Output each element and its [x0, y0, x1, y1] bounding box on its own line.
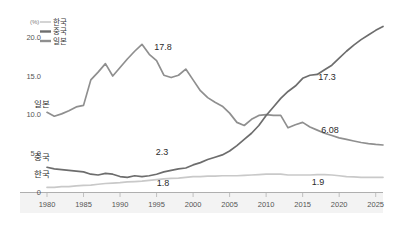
x-tick-label: 1990 [112, 200, 129, 209]
x-tick-label: 1995 [148, 200, 165, 209]
footer-note: 주: 2021~2026년 전망치 [10, 235, 89, 237]
series-label-china: 중국 [34, 152, 50, 162]
y-tick-label: 10.0 [26, 110, 41, 119]
value-annotation-2-3: 2.3 [156, 147, 169, 157]
legend-item-korea: 한국 [53, 18, 67, 27]
y-tick-label: 20.0 [26, 33, 41, 42]
footer-source: 자료: IMF [352, 235, 383, 237]
y-tick-label: 15.0 [26, 72, 41, 81]
x-tick-label: 2025 [367, 200, 384, 209]
value-annotation-1-8: 1.8 [157, 178, 170, 188]
x-tick-label: 1985 [75, 200, 92, 209]
x-tick-label: 2020 [331, 200, 348, 209]
chart-container: (%)20.015.010.05.00198019851990199520002… [0, 0, 393, 237]
legend-item-japan: 일본 [53, 37, 67, 46]
legend-item-china: 중국 [53, 27, 67, 36]
value-annotation-6-08: 6.08 [321, 125, 339, 135]
value-annotation-1-9: 1.9 [312, 177, 325, 187]
y-axis-unit: (%) [30, 19, 39, 25]
y-tick-label: 0 [37, 188, 41, 197]
value-annotation-17-3: 17.3 [318, 72, 336, 82]
series-label-korea: 한국 [34, 169, 50, 179]
x-tick-label: 2010 [258, 200, 275, 209]
series-label-japan: 일본 [34, 99, 50, 109]
x-tick-label: 2005 [221, 200, 238, 209]
x-tick-label: 2000 [185, 200, 202, 209]
value-annotation-17-8: 17.8 [154, 42, 172, 52]
chart-svg: (%)20.015.010.05.00198019851990199520002… [0, 0, 393, 237]
x-tick-label: 1980 [39, 200, 56, 209]
x-tick-label: 2015 [294, 200, 311, 209]
